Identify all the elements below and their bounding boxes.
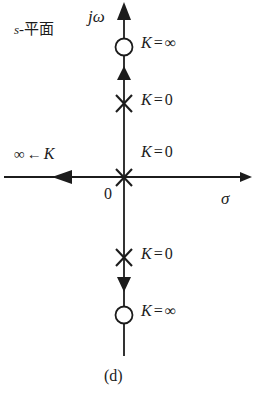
annotation-k-to-infinity-left: ∞←K [14, 146, 54, 162]
equals-sign: = [152, 302, 165, 319]
k-symbol: K [141, 302, 152, 319]
s-plane-label-cjk: 平面 [24, 20, 54, 38]
origin-label: 0 [104, 186, 112, 202]
annotation-k-zero-center: K=0 [141, 144, 173, 160]
real-axis-left-locus-arrowhead [52, 170, 72, 184]
k-symbol: K [141, 91, 152, 108]
annotation-k-infinity-lower: K=∞ [141, 303, 176, 319]
figure-caption: (d) [104, 368, 123, 384]
imaginary-axis-top-arrowhead [117, 2, 131, 20]
equals-sign: = [152, 34, 165, 51]
infinity-glyph: ∞ [14, 146, 25, 162]
imaginary-axis-label: jω [88, 8, 105, 25]
zero-marker-upper [116, 39, 133, 56]
k-value: 0 [165, 143, 173, 160]
root-locus-figure: s-平面 jω σ 0 K=∞ K=0 K=0 K=0 K=∞ ∞←K (d) [0, 0, 260, 400]
k-value: ∞ [165, 302, 176, 319]
annotation-k-zero-upper: K=0 [141, 92, 173, 108]
upper-branch-direction-arrowhead [117, 66, 131, 80]
k-symbol: K [141, 34, 152, 51]
s-plane-label: s-平面 [14, 22, 54, 37]
k-symbol: K [141, 245, 152, 262]
equals-sign: = [152, 245, 165, 262]
annotation-k-infinity-upper: K=∞ [141, 35, 176, 51]
equals-sign: = [152, 91, 165, 108]
annotation-k-zero-lower: K=0 [141, 246, 173, 262]
real-axis-right-arrowhead [240, 172, 252, 182]
k-symbol: K [44, 145, 55, 162]
zero-marker-lower [116, 307, 133, 324]
equals-sign: = [152, 143, 165, 160]
k-value: 0 [165, 91, 173, 108]
real-axis-label: σ [221, 190, 229, 207]
lower-branch-direction-arrowhead [117, 277, 131, 292]
left-arrow-icon: ← [25, 146, 44, 162]
k-value: 0 [165, 245, 173, 262]
k-symbol: K [141, 143, 152, 160]
k-value: ∞ [165, 34, 176, 51]
